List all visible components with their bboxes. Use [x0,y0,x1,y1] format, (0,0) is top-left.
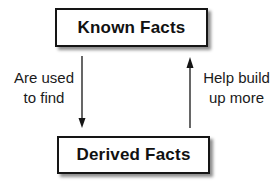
arrowhead-down-icon [79,118,86,128]
edge-label-are-used-to-find: Are used to find [4,68,84,108]
known-facts-node: Known Facts [55,8,208,47]
edge-label-line: Help build [196,68,277,88]
edge-label-help-build-up-more: Help build up more [196,68,277,108]
arrowhead-up-icon [187,57,194,68]
derived-facts-node: Derived Facts [57,136,210,174]
edge-label-line: up more [196,88,277,108]
arrow-up-derived-to-known [187,57,194,128]
derived-facts-label: Derived Facts [76,145,190,165]
edge-label-line: to find [4,88,84,108]
edge-label-line: Are used [4,68,84,88]
known-facts-label: Known Facts [78,18,186,38]
